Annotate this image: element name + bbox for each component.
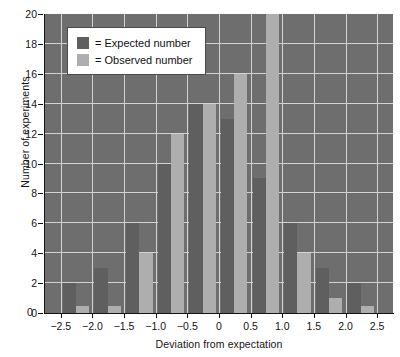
chart-legend: = Expected number = Observed number [67, 27, 206, 75]
x-tick-mark [61, 313, 62, 318]
x-tick-label: 2.5 [370, 320, 385, 332]
bar-expected [221, 119, 234, 313]
y-tick-mark [38, 74, 43, 75]
bar-expected [316, 268, 329, 313]
y-tick-mark [38, 44, 43, 45]
bar-observed [108, 306, 121, 313]
y-tick-label: 16 [1, 68, 37, 80]
bar-observed [203, 104, 216, 313]
x-tick-label: −2.5 [50, 320, 71, 332]
y-tick-mark [38, 283, 43, 284]
bar-expected [94, 268, 107, 313]
y-tick-mark [38, 313, 43, 314]
x-tick-label: −2.0 [82, 320, 103, 332]
y-axis-spine [44, 14, 45, 314]
x-tick-mark [156, 313, 157, 318]
y-tick-mark [38, 104, 43, 105]
x-tick-mark [219, 313, 220, 318]
bar-observed [361, 306, 374, 313]
legend-swatch-expected-icon [77, 37, 89, 49]
x-tick-label: 1.0 [275, 320, 290, 332]
x-axis-origin-label: 0 [27, 306, 33, 318]
y-tick-label: 18 [1, 38, 37, 50]
x-tick-label: 0.5 [243, 320, 258, 332]
x-tick-label: −0.5 [177, 320, 198, 332]
y-tick-label: 4 [1, 247, 37, 259]
bar-expected [347, 283, 360, 313]
bar-observed [139, 253, 152, 313]
x-tick-label: −1.0 [145, 320, 166, 332]
x-tick-mark [124, 313, 125, 318]
bar-observed [266, 14, 279, 313]
x-tick-mark [314, 313, 315, 318]
bar-observed [329, 298, 342, 313]
y-tick-mark [38, 223, 43, 224]
bar-observed [171, 134, 184, 313]
bar-expected [253, 178, 266, 313]
y-tick-label: 8 [1, 187, 37, 199]
x-tick-label: 0 [216, 320, 222, 332]
y-tick-mark [38, 253, 43, 254]
x-tick-mark [251, 313, 252, 318]
y-tick-mark [38, 193, 43, 194]
legend-item-observed: = Observed number [77, 51, 193, 68]
y-tick-label: 2 [1, 277, 37, 289]
x-tick-mark [282, 313, 283, 318]
legend-item-expected: = Expected number [77, 34, 193, 51]
y-tick-label: 6 [1, 217, 37, 229]
bar-expected [158, 164, 171, 314]
bar-observed [297, 253, 310, 313]
x-tick-mark [187, 313, 188, 318]
y-tick-label: 20 [1, 8, 37, 20]
legend-label-expected: = Expected number [95, 37, 191, 49]
x-tick-label: 1.5 [307, 320, 322, 332]
bar-expected [126, 223, 139, 313]
legend-swatch-observed-icon [77, 54, 89, 66]
y-tick-mark [38, 134, 43, 135]
y-tick-label: 14 [1, 98, 37, 110]
x-tick-label: 2.0 [338, 320, 353, 332]
y-tick-label: 10 [1, 158, 37, 170]
bar-observed [234, 74, 247, 313]
x-tick-mark [377, 313, 378, 318]
y-tick-label: 12 [1, 128, 37, 140]
x-axis-label: Deviation from expectation [44, 338, 394, 350]
bar-expected [284, 223, 297, 313]
y-axis-ticks: 02468101214161820 [0, 14, 41, 313]
histogram-figure: Number of experiments Deviation from exp… [0, 0, 400, 357]
legend-label-observed: = Observed number [95, 54, 193, 66]
y-tick-mark [38, 164, 43, 165]
y-tick-mark [38, 14, 43, 15]
bar-observed [76, 306, 89, 313]
x-tick-mark [92, 313, 93, 318]
x-tick-mark [346, 313, 347, 318]
bar-expected [189, 104, 202, 313]
x-axis-ticks: −2.5−2.0−1.5−1.0−0.500.51.01.52.02.5 [45, 313, 393, 339]
x-tick-label: −1.5 [114, 320, 135, 332]
bar-expected [63, 283, 76, 313]
